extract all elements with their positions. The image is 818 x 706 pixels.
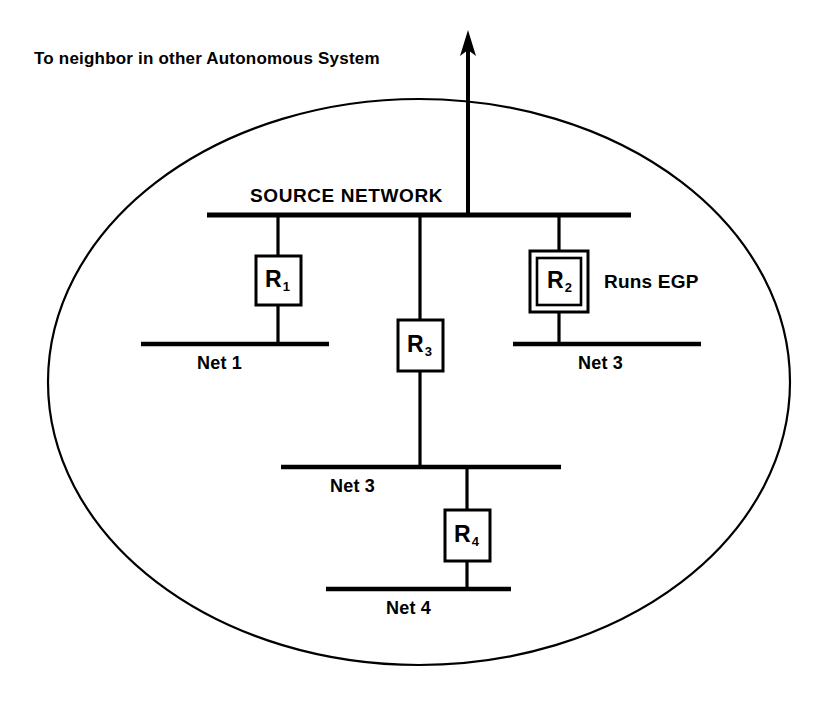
router-label-r1-index: 1 [283,279,290,294]
router-label-r4-index: 4 [472,534,479,549]
router-label-r1-name: R [265,266,282,292]
router-label-r2-name: R [547,267,564,293]
source-network-label: SOURCE NETWORK [250,186,443,205]
router-label-r1: R1 [265,268,289,291]
runs-egp-note: Runs EGP [604,272,699,291]
router-label-r4: R4 [454,523,478,546]
diagram-canvas: To neighbor in other Autonomous System S… [0,0,818,706]
router-label-r3-name: R [407,331,424,357]
net4-label: Net 4 [386,599,431,617]
router-label-r2: R2 [547,269,571,292]
router-label-r3-index: 3 [425,344,432,359]
router-label-r4-name: R [454,521,471,547]
router-label-r3: R3 [407,333,431,356]
net3-label: Net 3 [330,477,375,495]
net2-label: Net 3 [578,354,623,372]
external-link-caption: To neighbor in other Autonomous System [34,50,380,67]
router-label-r2-index: 2 [565,280,572,295]
net1-label: Net 1 [197,354,242,372]
